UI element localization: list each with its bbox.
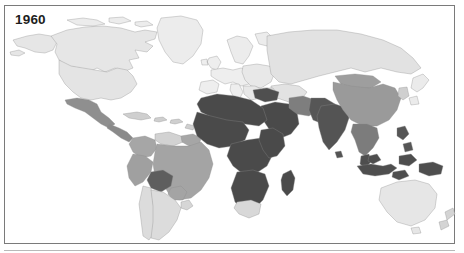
region-southeast-asia-mainland <box>351 124 379 156</box>
region-new-zealand <box>439 208 455 230</box>
region-south-africa <box>234 200 261 218</box>
region-iberia <box>199 80 219 94</box>
region-central-america <box>107 124 133 142</box>
region-sri-lanka <box>335 151 343 158</box>
region-scandinavia <box>227 32 273 64</box>
region-canada-arctic-islands <box>67 17 153 27</box>
world-choropleth-map <box>5 6 456 245</box>
region-uruguay <box>181 200 193 210</box>
figure-panel: 1960 <box>0 0 464 253</box>
region-venezuela <box>155 132 183 146</box>
year-label: 1960 <box>15 13 46 27</box>
region-philippines <box>397 126 413 152</box>
region-australia <box>379 180 437 226</box>
region-papua-new-guinea <box>419 162 443 176</box>
region-greenland <box>157 16 203 64</box>
region-tasmania <box>411 227 421 234</box>
region-japan <box>409 74 429 105</box>
region-madagascar <box>281 170 295 196</box>
region-british-isles <box>201 56 221 70</box>
map-frame: 1960 <box>4 5 455 244</box>
region-alaska <box>10 34 57 56</box>
baseline-rule <box>4 250 455 251</box>
region-caribbean <box>123 112 195 130</box>
region-mexico <box>65 98 115 128</box>
